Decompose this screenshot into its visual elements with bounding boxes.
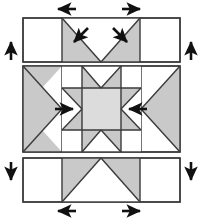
star-center-square: [82, 88, 121, 130]
quilt-diagram-canvas: [0, 0, 202, 219]
star-corner-top-right: [121, 66, 141, 88]
star-corner-top-left: [62, 66, 82, 88]
top-row: [23, 18, 180, 62]
star-corner-bottom-right: [121, 130, 141, 152]
star-corner-bottom-left: [62, 130, 82, 152]
middle-row: [23, 66, 180, 152]
quilt-pressing-diagram: [0, 0, 202, 219]
bottom-row: [23, 158, 180, 202]
